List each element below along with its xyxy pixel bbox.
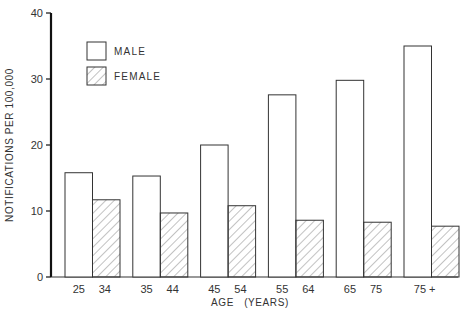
legend: MALE FEMALE <box>87 42 161 85</box>
x-tick-label-start: 25 <box>73 283 85 295</box>
x-tick-label-end: 34 <box>99 283 111 295</box>
bar-group <box>404 46 459 277</box>
bar-male <box>404 46 432 277</box>
x-tick-label-start: 65 <box>344 283 356 295</box>
x-tick-label-end: 75 <box>370 283 382 295</box>
y-tick-label: 10 <box>31 205 43 217</box>
bar-female <box>93 200 121 277</box>
bar-group <box>201 145 256 277</box>
legend-label-male: MALE <box>114 46 146 57</box>
legend-label-female: FEMALE <box>114 71 161 82</box>
bar-male <box>336 80 364 277</box>
x-axis-title: AGE (YEARS) <box>211 297 289 308</box>
bar-female <box>364 222 392 277</box>
bar-female <box>228 206 256 277</box>
bar-group <box>133 176 188 277</box>
x-tick-label-start: 75 + <box>414 283 436 295</box>
bar-group <box>268 95 323 277</box>
x-tick-label-end: 64 <box>302 283 314 295</box>
bar-male <box>201 145 229 277</box>
bar-group <box>336 80 391 277</box>
legend-item-male: MALE <box>87 42 146 60</box>
y-tick-label: 30 <box>31 73 43 85</box>
bar-female <box>296 220 324 277</box>
legend-swatch-hatched <box>87 67 106 85</box>
y-tick-label: 0 <box>37 271 43 283</box>
y-axis-title: NOTIFICATIONS PER 100,000 <box>4 68 15 222</box>
x-tick-label-end: 54 <box>234 283 246 295</box>
y-tick-label: 40 <box>31 7 43 19</box>
bar-female <box>432 226 460 277</box>
x-tick-label-start: 35 <box>140 283 152 295</box>
bar-female <box>160 213 188 277</box>
y-tick-label: 20 <box>31 139 43 151</box>
x-tick-label-end: 44 <box>167 283 179 295</box>
x-tick-label-start: 45 <box>208 283 220 295</box>
legend-swatch-open <box>87 42 106 60</box>
bar-male <box>133 176 161 277</box>
x-axis-category-labels: 2534354445545564657575 + <box>73 283 436 295</box>
bar-chart: 010203040 NOTIFICATIONS PER 100,000 2534… <box>0 0 471 316</box>
legend-item-female: FEMALE <box>87 67 161 85</box>
bar-male <box>65 173 93 277</box>
y-axis-ticks: 010203040 <box>31 7 51 283</box>
bar-male <box>268 95 296 277</box>
bar-group <box>65 173 120 277</box>
x-tick-label-start: 55 <box>276 283 288 295</box>
